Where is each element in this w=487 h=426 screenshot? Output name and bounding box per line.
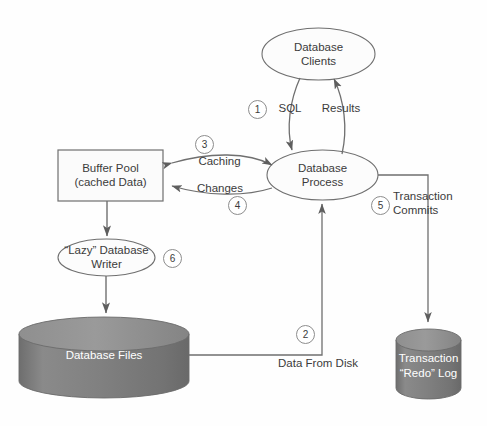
edge-caching bbox=[172, 155, 272, 165]
step-badge-2: 2 bbox=[296, 325, 315, 344]
edge-sql bbox=[289, 78, 300, 150]
node-database-process bbox=[267, 150, 378, 200]
node-database-clients bbox=[262, 28, 375, 80]
step-badge-1: 1 bbox=[248, 100, 267, 119]
node-transaction-redo-log bbox=[396, 329, 461, 399]
database-architecture-diagram: Database Clients Database Process Buffer… bbox=[0, 0, 487, 426]
node-lazy-database-writer bbox=[58, 239, 155, 276]
node-database-files bbox=[19, 317, 189, 398]
step-badge-4: 4 bbox=[228, 196, 247, 215]
diagram-canvas bbox=[0, 0, 487, 426]
step-badge-6: 6 bbox=[163, 249, 182, 268]
edge-results bbox=[334, 79, 345, 154]
step-badge-5: 5 bbox=[371, 196, 390, 215]
node-buffer-pool bbox=[58, 150, 163, 201]
edge-changes bbox=[172, 186, 272, 194]
step-badge-3: 3 bbox=[195, 135, 214, 154]
